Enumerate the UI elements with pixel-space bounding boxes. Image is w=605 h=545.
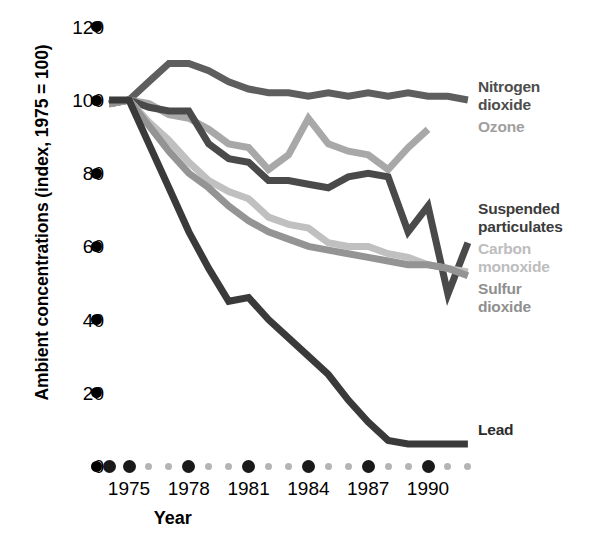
x-tick-dot-1981 xyxy=(242,460,255,473)
x-tick-dot-1977 xyxy=(165,463,172,470)
x-tick-dot-1992 xyxy=(464,463,471,470)
x-tick-dot-1975 xyxy=(123,460,136,473)
x-tick-dot-1974 xyxy=(103,460,116,473)
x-tick-dot-1978 xyxy=(182,460,195,473)
x-tick-dot-1986 xyxy=(345,463,352,470)
x-tick-dot-1987 xyxy=(362,460,375,473)
x-tick-dot-1979 xyxy=(205,463,212,470)
x-tick-dot-1985 xyxy=(325,463,332,470)
x-tick-dot-1989 xyxy=(405,463,412,470)
series-line-nitrogen-dioxide xyxy=(109,63,468,103)
series-label-nitrogen-dioxide: Nitrogen dioxide xyxy=(478,78,540,113)
x-tick-label-1990: 1990 xyxy=(388,478,468,500)
series-label-sulfur-dioxide: Sulfur dioxide xyxy=(478,280,531,315)
x-tick-dot-1990 xyxy=(422,460,435,473)
series-label-ozone: Ozone xyxy=(478,118,524,136)
chart-container: Ambient concentrations (index, 1975 = 10… xyxy=(0,0,605,545)
x-tick-dot-1982 xyxy=(265,463,272,470)
x-tick-dot-1983 xyxy=(285,463,292,470)
series-line-sulfur-dioxide xyxy=(109,100,468,276)
series-label-suspended-particulates: Suspended particulates xyxy=(478,200,563,235)
series-label-lead: Lead xyxy=(478,421,513,439)
x-tick-dot-1984 xyxy=(302,460,315,473)
series-label-carbon-monoxide: Carbon monoxide xyxy=(478,240,550,275)
x-tick-dot-1980 xyxy=(225,463,232,470)
x-tick-dot-1988 xyxy=(385,463,392,470)
x-axis-title: Year xyxy=(113,508,233,529)
x-tick-dot-1991 xyxy=(444,463,451,470)
series-line-carbon-monoxide xyxy=(109,100,468,272)
x-tick-dot-1976 xyxy=(145,463,152,470)
